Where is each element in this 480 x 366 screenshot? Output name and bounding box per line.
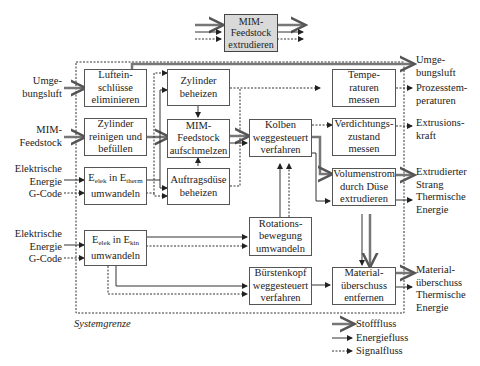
- block-zylinder-reinigen: Zylinder reinigen und befüllen: [84, 118, 147, 156]
- top-function-block: MIM- Feedstock extrudieren: [224, 14, 278, 52]
- output-material-energie: Material- überschuss Thermische Energie: [416, 264, 466, 314]
- block-etherm: Eelek in Etherm umwandeln: [84, 167, 147, 205]
- output-extrusionskraft: Extrusions- kraft: [416, 117, 464, 142]
- input-umgebungsluft: Umge- bungsluft: [2, 75, 62, 100]
- input-mim-feedstock: MIM- Feedstock: [2, 124, 62, 149]
- block-materialueberschuss: Material- überschuss entfernen: [332, 267, 396, 305]
- block-volumenstrom: Volumenstrom durch Düse extrudieren: [332, 168, 396, 206]
- output-prozesstemperaturen: Prozesstem- peraturen: [416, 82, 467, 107]
- connection-lines: [0, 0, 480, 366]
- input-energie-gcode-1: Elektrische Energie G-Code: [2, 163, 62, 201]
- input-energie-gcode-2: Elektrische Energie G-Code: [2, 228, 62, 266]
- output-strang-energie: Extrudierter Strang Thermische Energie: [416, 166, 467, 216]
- legend-stofffluss: Stofffluss: [356, 318, 396, 331]
- block-temperaturen: Tempe- raturen messen: [332, 69, 396, 107]
- block-lufteinschluesse: Luftein- schlüsse eliminieren: [84, 69, 147, 107]
- legend-energiefluss: Energiefluss: [356, 332, 408, 345]
- block-buerstenkopf: Bürstenkopf weggesteuert verfahren: [249, 267, 312, 305]
- block-zylinder-beheizen: Zylinder beheizen: [167, 69, 230, 106]
- block-verdichtung: Verdichtungs- zustand messen: [332, 118, 396, 156]
- block-kolben: Kolben weggesteuert verfahren: [249, 119, 312, 157]
- block-feedstock-aufschmelzen: MIM- Feedstock aufschmelzen: [167, 119, 230, 158]
- output-umgebungsluft: Umge- bungsluft: [416, 54, 456, 79]
- block-rotation: Rotations- bewegung umwandeln: [249, 217, 312, 256]
- block-ekin: Eelek in Ekin umwandeln: [84, 230, 147, 266]
- block-auftragsduese: Auftragsdüse beheizen: [167, 168, 230, 205]
- system-boundary-label: Systemgrenze: [74, 318, 131, 329]
- legend-signalfluss: Signalfluss: [356, 345, 403, 358]
